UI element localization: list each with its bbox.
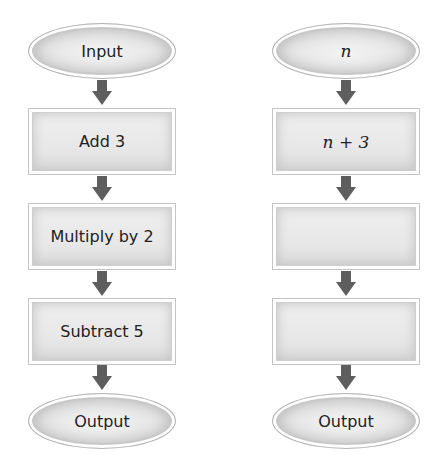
input-oval: Input	[28, 23, 176, 79]
down-arrow-icon	[92, 271, 112, 297]
down-arrow-icon	[336, 365, 356, 391]
step-label: n + 3	[323, 132, 370, 152]
step-box-2-blank	[272, 203, 420, 270]
step-box-3: Subtract 5	[28, 298, 176, 365]
step-box-1: Add 3	[28, 108, 176, 175]
input-label: Input	[81, 42, 122, 61]
output-oval: Output	[272, 393, 420, 449]
step-label: Multiply by 2	[50, 227, 153, 246]
down-arrow-icon	[92, 176, 112, 202]
step-label: Add 3	[79, 132, 125, 151]
down-arrow-icon	[336, 176, 356, 202]
step-label: Subtract 5	[60, 322, 143, 341]
step-box-2: Multiply by 2	[28, 203, 176, 270]
down-arrow-icon	[92, 80, 112, 106]
step-box-1: n + 3	[272, 108, 420, 175]
down-arrow-icon	[92, 365, 112, 391]
right-flowchart: n n + 3 Output	[272, 0, 422, 462]
down-arrow-icon	[336, 271, 356, 297]
input-label: n	[341, 41, 352, 61]
output-oval: Output	[28, 393, 176, 449]
input-oval: n	[272, 23, 420, 79]
left-flowchart: Input Add 3 Multiply by 2 Subtract 5 Out…	[28, 0, 178, 462]
output-label: Output	[318, 412, 374, 431]
down-arrow-icon	[336, 80, 356, 106]
output-label: Output	[74, 412, 130, 431]
step-box-3-blank	[272, 298, 420, 365]
